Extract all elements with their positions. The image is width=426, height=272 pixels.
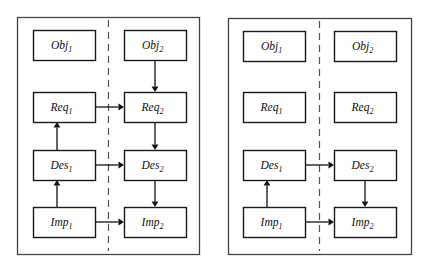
node-obj1[interactable]: Obj1 (34, 31, 96, 61)
node-obj2[interactable]: Obj2 (125, 31, 187, 61)
panel-right: Obj1Obj2Req1Req2Des1Des2Imp1Imp2 (229, 19, 412, 255)
node-des1[interactable]: Des1 (34, 151, 96, 181)
node-des2[interactable]: Des2 (335, 151, 397, 181)
arrowhead-icon (119, 162, 125, 169)
node-imp2[interactable]: Imp2 (335, 208, 397, 238)
traceability-diagram: Obj1Obj2Req1Req2Des1Des2Imp1Imp2Obj1Obj2… (0, 0, 426, 272)
panel-left: Obj1Obj2Req1Req2Des1Des2Imp1Imp2 (18, 18, 200, 255)
edge-des1-to-req1 (54, 122, 61, 150)
node-des2[interactable]: Des2 (125, 151, 187, 181)
arrowhead-icon (152, 87, 159, 93)
node-imp2[interactable]: Imp2 (125, 208, 187, 238)
arrowhead-icon (329, 219, 335, 226)
node-req2[interactable]: Req2 (335, 93, 397, 123)
edge-imp1-to-des1 (54, 180, 61, 207)
node-obj2[interactable]: Obj2 (335, 32, 397, 62)
node-imp1[interactable]: Imp1 (244, 208, 306, 238)
edge-req2-to-des2 (152, 122, 159, 150)
edge-des2-to-imp2 (362, 180, 369, 207)
arrowhead-icon (329, 162, 335, 169)
arrowhead-icon (119, 219, 125, 226)
diagram-canvas: Obj1Obj2Req1Req2Des1Des2Imp1Imp2Obj1Obj2… (0, 0, 426, 272)
arrowhead-icon (362, 202, 369, 208)
node-req2[interactable]: Req2 (125, 93, 187, 123)
node-imp1[interactable]: Imp1 (34, 208, 96, 238)
edge-des2-to-imp2 (152, 180, 159, 207)
edge-imp1-to-des1 (264, 180, 271, 207)
edge-imp1-to-imp2 (95, 219, 124, 226)
edge-req1-to-req2 (95, 104, 124, 111)
node-req1[interactable]: Req1 (34, 93, 96, 123)
node-obj1[interactable]: Obj1 (244, 32, 306, 62)
arrowhead-icon (152, 145, 159, 151)
node-des1[interactable]: Des1 (244, 151, 306, 181)
arrowhead-icon (152, 202, 159, 208)
node-req1[interactable]: Req1 (244, 93, 306, 123)
edge-des1-to-des2 (95, 162, 124, 169)
arrowhead-icon (119, 104, 125, 111)
edge-obj2-to-req2 (152, 60, 159, 92)
